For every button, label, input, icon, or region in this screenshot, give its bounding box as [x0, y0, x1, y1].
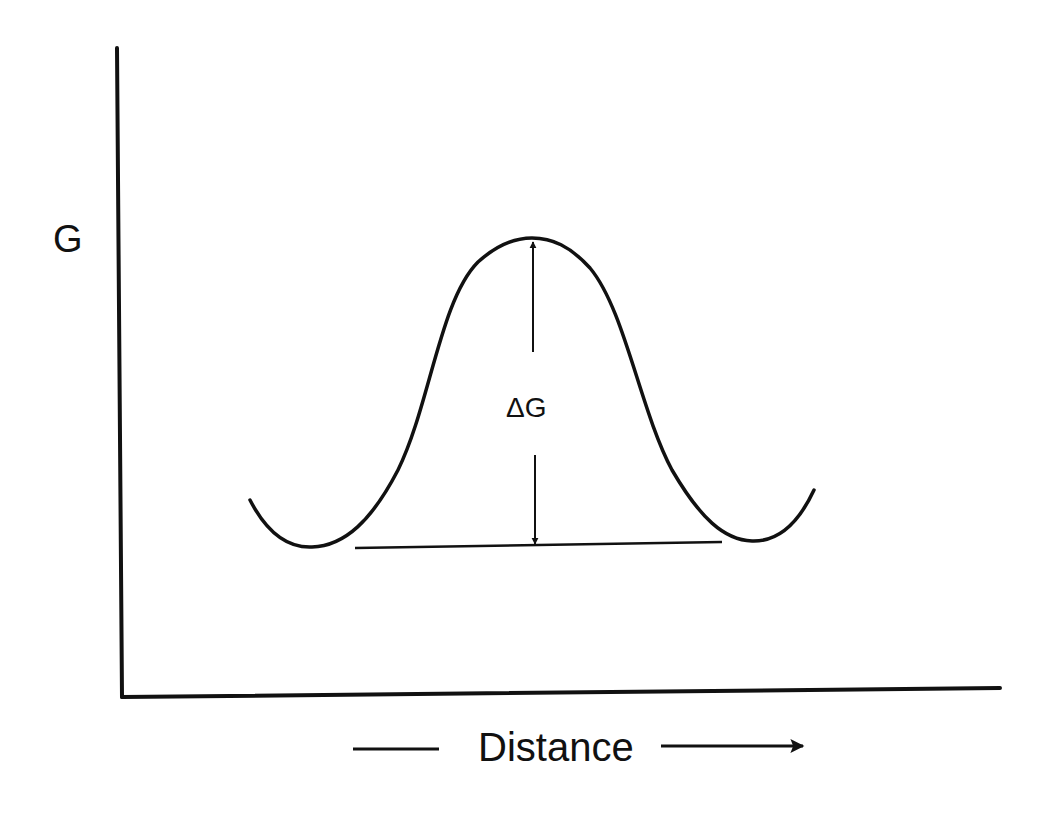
x-axis — [122, 688, 1000, 697]
y-axis — [117, 48, 122, 697]
delta-g-label: ΔG — [506, 394, 546, 422]
baseline-line — [355, 542, 722, 548]
y-axis-label: G — [53, 220, 83, 258]
x-axis-label: Distance — [478, 727, 634, 767]
